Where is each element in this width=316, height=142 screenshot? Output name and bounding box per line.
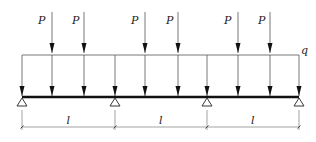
span-length-label: l — [251, 114, 255, 127]
p-label: P — [223, 14, 232, 27]
p-label: P — [130, 14, 139, 27]
p-label: P — [165, 14, 174, 27]
pin-support-icon — [294, 98, 304, 106]
supports — [17, 98, 304, 106]
distributed-load: q — [22, 44, 308, 96]
pin-support-icon — [202, 98, 212, 106]
point-loads: PPPPPP — [37, 12, 270, 96]
beam-diagram: q PPPPPP lll — [0, 0, 316, 142]
q-label: q — [301, 44, 308, 57]
p-label: P — [71, 14, 80, 27]
p-label: P — [257, 14, 266, 27]
p-label: P — [37, 14, 46, 27]
span-dimensions: lll — [21, 110, 301, 130]
span-length-label: l — [67, 114, 71, 127]
pin-support-icon — [17, 98, 27, 106]
span-length-label: l — [159, 114, 163, 127]
pin-support-icon — [110, 98, 120, 106]
